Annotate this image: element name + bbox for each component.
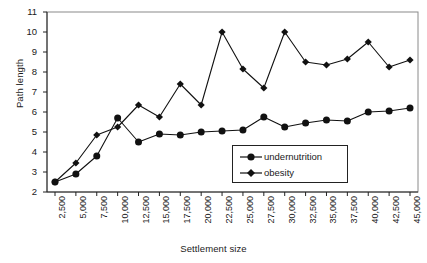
data-point bbox=[323, 117, 330, 124]
data-point bbox=[198, 129, 205, 136]
legend-label-obesity: obesity bbox=[264, 168, 294, 178]
data-point bbox=[281, 28, 288, 35]
data-point bbox=[156, 113, 163, 120]
data-point bbox=[219, 128, 226, 135]
data-point bbox=[407, 105, 414, 112]
legend-marker-circle-icon bbox=[238, 150, 264, 164]
data-point bbox=[323, 61, 330, 68]
data-point bbox=[281, 124, 288, 131]
legend-item-undernutrition: undernutrition bbox=[233, 149, 347, 165]
data-point bbox=[239, 127, 246, 134]
data-point bbox=[93, 153, 100, 160]
data-point bbox=[156, 131, 163, 138]
data-point bbox=[135, 139, 142, 146]
legend-item-obesity: obesity bbox=[233, 165, 347, 181]
data-point bbox=[177, 132, 184, 139]
data-point bbox=[72, 171, 79, 178]
data-point bbox=[386, 108, 393, 115]
chart-container: Path length Settlement size 234567891011… bbox=[0, 0, 427, 263]
data-point bbox=[365, 109, 372, 116]
chart-legend: undernutrition obesity bbox=[232, 145, 348, 183]
plot-area bbox=[0, 0, 427, 263]
legend-label-undernutrition: undernutrition bbox=[264, 152, 322, 162]
legend-marker-diamond-icon bbox=[238, 166, 264, 180]
data-point bbox=[114, 115, 121, 122]
data-point bbox=[406, 56, 413, 63]
data-point bbox=[218, 28, 225, 35]
data-point bbox=[302, 58, 309, 65]
data-point bbox=[344, 118, 351, 125]
data-point bbox=[302, 120, 309, 127]
data-point bbox=[260, 114, 267, 121]
